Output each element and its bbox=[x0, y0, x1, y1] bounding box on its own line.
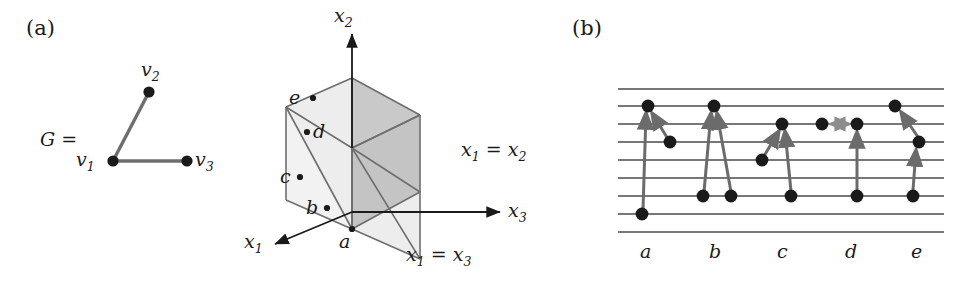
dot-b-bottom-right bbox=[725, 190, 738, 203]
dot-e-mid bbox=[913, 136, 926, 149]
arrow-b-2 bbox=[717, 113, 731, 192]
dot-a-bottom bbox=[636, 208, 649, 221]
dot-c-bottom bbox=[785, 190, 798, 203]
column-label-c: c bbox=[777, 240, 788, 262]
column-label-d: d bbox=[845, 240, 857, 262]
arrow-a-2 bbox=[652, 113, 668, 139]
dot-a-top bbox=[642, 100, 655, 113]
dot-b-bottom-left bbox=[697, 190, 710, 203]
column-d-arrows bbox=[831, 124, 857, 190]
column-b-arrows bbox=[704, 113, 731, 192]
column-label-a: a bbox=[640, 240, 651, 262]
panel-b-diagram bbox=[0, 0, 976, 290]
dot-d-right bbox=[851, 118, 864, 131]
arrow-b-1 bbox=[704, 113, 711, 192]
dot-c-mid bbox=[756, 154, 769, 167]
dot-d-left bbox=[816, 118, 829, 131]
dot-b-top bbox=[708, 100, 721, 113]
arrow-c-2 bbox=[785, 131, 791, 191]
dot-e-top bbox=[889, 100, 902, 113]
dot-c-top bbox=[776, 118, 789, 131]
arrow-e-vertical bbox=[913, 150, 916, 190]
figure-root: (a) (b) G = v2 v1 v3 bbox=[0, 0, 976, 290]
dot-d-bottom bbox=[851, 190, 864, 203]
column-label-e: e bbox=[911, 240, 922, 262]
arrow-c-1 bbox=[764, 131, 779, 156]
dot-a-mid bbox=[664, 136, 677, 149]
dot-e-bottom bbox=[907, 190, 920, 203]
column-label-b: b bbox=[709, 240, 721, 262]
